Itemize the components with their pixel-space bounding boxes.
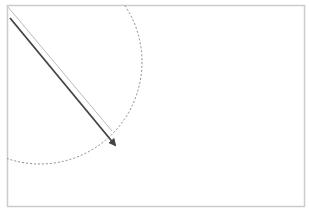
frame <box>8 6 305 207</box>
diagram-canvas <box>0 0 309 212</box>
